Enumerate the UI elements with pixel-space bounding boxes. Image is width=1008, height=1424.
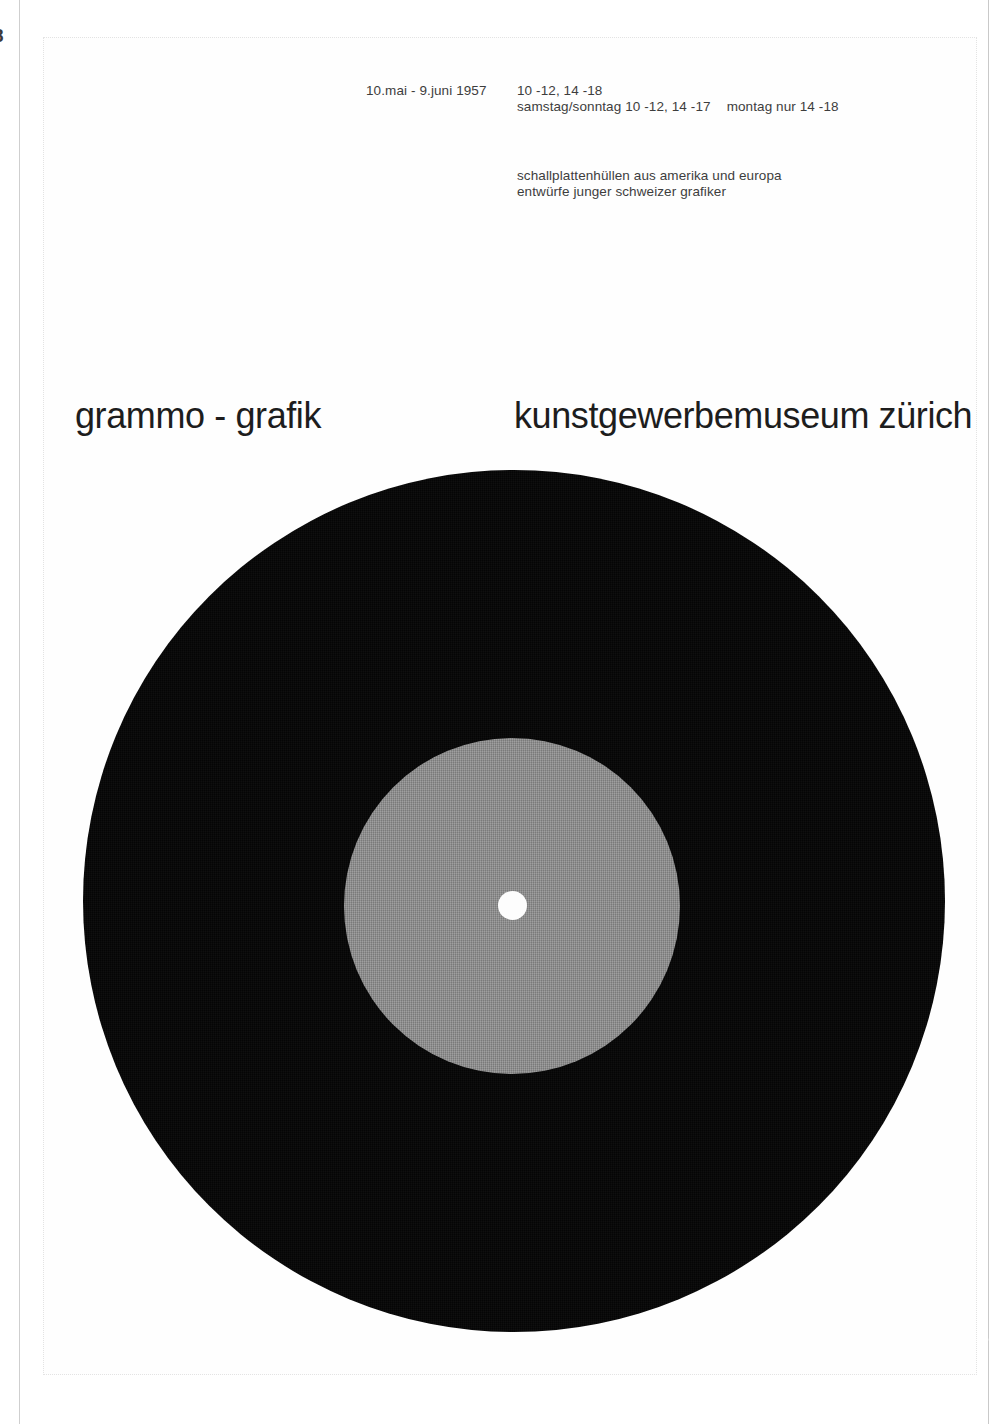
scan-gutter-rule-right — [988, 0, 989, 1424]
exhibition-subject-line1: schallplattenhüllen aus amerika und euro… — [517, 168, 782, 184]
record-label-circle — [344, 738, 680, 1074]
opening-hours-monday: montag nur 14 -18 — [727, 99, 839, 114]
scanned-page: 8 10.mai - 9.juni 1957 10 -12, 14 -18 sa… — [0, 0, 1008, 1424]
poster-sheet: 10.mai - 9.juni 1957 10 -12, 14 -18 sams… — [43, 37, 977, 1375]
exhibition-dates: 10.mai - 9.juni 1957 — [366, 83, 487, 98]
record-spindle-hole — [498, 891, 527, 920]
record-disc — [83, 470, 945, 1332]
page-number: 8 — [0, 26, 4, 45]
opening-hours: 10 -12, 14 -18 samstag/sonntag 10 -12, 1… — [517, 83, 839, 115]
scan-streak-line — [111, 1338, 995, 1352]
opening-hours-weekday: 10 -12, 14 -18 — [517, 83, 602, 98]
exhibition-subject: schallplattenhüllen aus amerika und euro… — [517, 168, 782, 200]
opening-hours-row2: samstag/sonntag 10 -12, 14 -17montag nur… — [517, 99, 839, 115]
opening-hours-weekend: samstag/sonntag 10 -12, 14 -17 — [517, 99, 711, 114]
poster-title: grammo - grafik — [75, 395, 321, 437]
exhibition-subject-line2: entwürfe junger schweizer grafiker — [517, 184, 782, 200]
venue-name: kunstgewerbemuseum zürich — [514, 395, 972, 437]
scan-gutter-rule-left — [19, 0, 20, 1424]
poster-header: 10.mai - 9.juni 1957 10 -12, 14 -18 sams… — [44, 38, 976, 218]
vinyl-record-illustration — [44, 38, 976, 1374]
